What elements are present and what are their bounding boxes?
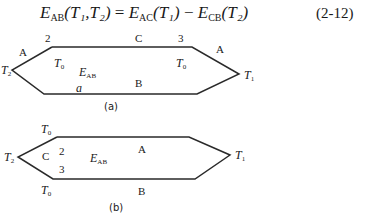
- diagram-a-junction-3: 3: [178, 33, 184, 44]
- diagram-a-junction-2: 2: [45, 33, 51, 44]
- diagram-b-t1: T1: [235, 149, 245, 163]
- diagram-a-point-a: a: [76, 82, 82, 94]
- diagram-a-conductor-a-right: A: [216, 44, 224, 55]
- diagram-a-circuit: [12, 47, 239, 94]
- diagram-b-t0-bottom: T0: [41, 184, 51, 198]
- diagram-b-conductor-c: C: [42, 151, 49, 162]
- diagram-a-conductor-b: B: [135, 78, 142, 89]
- diagram-b-conductor-a: A: [138, 144, 146, 155]
- diagram-a-conductor-a-left: A: [19, 47, 27, 58]
- diagram-a-emf: EAB: [79, 66, 96, 80]
- diagram-b-caption: (b): [109, 202, 123, 213]
- diagram-b-emf: EAB: [90, 152, 107, 166]
- diagram-a-t2: T2: [1, 64, 11, 78]
- diagram-b-conductor-b: B: [138, 186, 145, 197]
- diagram-b-junction-3: 3: [59, 164, 65, 175]
- diagram-b-t2: T2: [4, 151, 14, 165]
- diagram-a-t1: T1: [244, 69, 254, 83]
- diagram-a-t0-left: T0: [54, 57, 64, 71]
- diagram-b-circuit: [18, 137, 230, 179]
- diagram-a-t0-right: T0: [176, 57, 186, 71]
- thermocouple-diagrams: [0, 0, 379, 217]
- diagram-b-junction-2: 2: [59, 146, 65, 157]
- diagram-a-caption: (a): [104, 101, 118, 112]
- diagram-a-conductor-c: C: [135, 33, 142, 44]
- diagram-b-t0-top: T0: [41, 123, 51, 137]
